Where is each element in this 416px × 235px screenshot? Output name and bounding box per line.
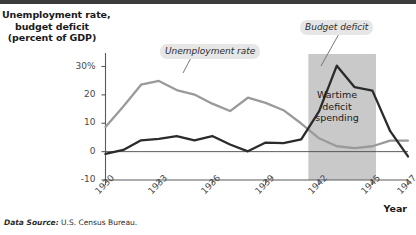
y-tick-label: 10 (62, 117, 96, 127)
y-tick-label: 0 (62, 146, 96, 156)
data-source-note: Data Source: U.S. Census Bureau. (4, 218, 137, 227)
band-label-line-1: Wartime (301, 89, 373, 101)
data-source-lead: Data Source: (4, 218, 59, 227)
callout-leader-unemployment (183, 56, 192, 73)
series-callout-unemployment-rate: Unemployment rate (160, 44, 260, 59)
data-source-text: U.S. Census Bureau. (59, 218, 138, 227)
y-tick-label: -10 (62, 174, 96, 184)
wartime-band-label: Wartime deficit spending (301, 89, 373, 124)
chart-figure: Unemployment rate, budget deficit (perce… (0, 0, 416, 235)
y-tick-label: 30% (62, 61, 96, 71)
y-tick-label: 20 (62, 89, 96, 99)
series-callout-budget-deficit: Budget deficit (300, 20, 373, 35)
band-label-line-2: deficit (301, 101, 373, 113)
x-axis-title: Year (383, 203, 407, 214)
band-label-line-3: spending (301, 112, 373, 124)
